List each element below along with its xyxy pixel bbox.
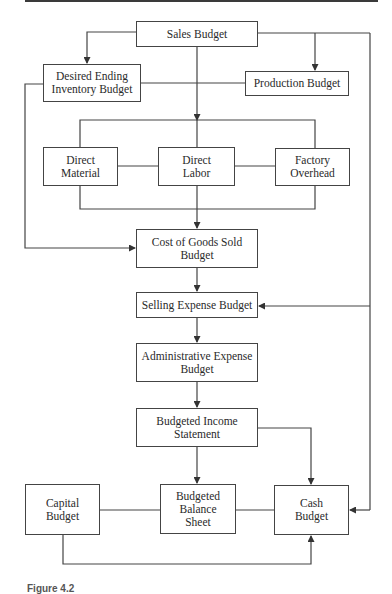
node-sales-budget: Sales Budget: [136, 21, 258, 47]
node-budgeted-balance-sheet: Budgeted Balance Sheet: [160, 484, 236, 534]
node-cash-budget: Cash Budget: [274, 485, 349, 535]
node-cost-of-goods-sold-budget: Cost of Goods Sold Budget: [136, 229, 258, 268]
node-capital-budget: Capital Budget: [25, 484, 100, 535]
node-budgeted-income-statement: Budgeted Income Statement: [136, 408, 258, 447]
node-direct-material: Direct Material: [43, 147, 118, 186]
node-factory-overhead: Factory Overhead: [275, 148, 350, 186]
node-administrative-expense-budget: Administrative Expense Budget: [136, 343, 258, 382]
node-direct-labor: Direct Labor: [158, 147, 235, 186]
figure-caption: Figure 4.2: [27, 583, 74, 594]
node-selling-expense-budget: Selling Expense Budget: [136, 292, 258, 318]
node-desired-ending-inventory-budget: Desired Ending Inventory Budget: [43, 64, 141, 102]
node-production-budget: Production Budget: [245, 71, 349, 96]
